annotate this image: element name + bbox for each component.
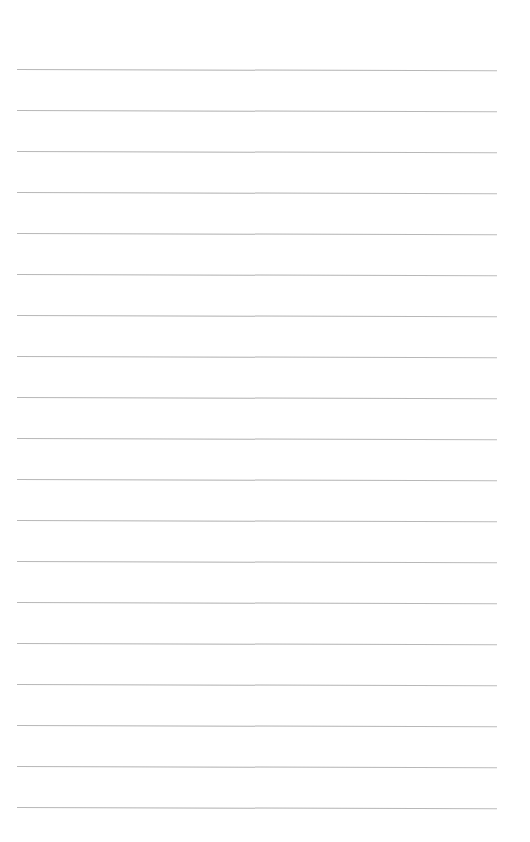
- ruled-line: [17, 110, 497, 112]
- ruled-line: [17, 356, 497, 358]
- ruled-line: [17, 479, 497, 481]
- ruled-line: [17, 438, 497, 440]
- lined-paper-page: [0, 0, 530, 842]
- ruled-line: [17, 397, 497, 399]
- ruled-line: [17, 643, 497, 645]
- ruled-line: [17, 274, 497, 276]
- ruled-line: [17, 561, 497, 563]
- ruled-line: [17, 69, 497, 71]
- ruled-line: [17, 602, 497, 604]
- ruled-line: [17, 192, 497, 194]
- ruled-line: [17, 233, 497, 235]
- ruled-line: [17, 766, 497, 768]
- ruled-line: [17, 520, 497, 522]
- ruled-line: [17, 725, 497, 727]
- ruled-line: [17, 807, 497, 809]
- ruled-line: [17, 151, 497, 153]
- ruled-line: [17, 315, 497, 317]
- ruled-line: [17, 684, 497, 686]
